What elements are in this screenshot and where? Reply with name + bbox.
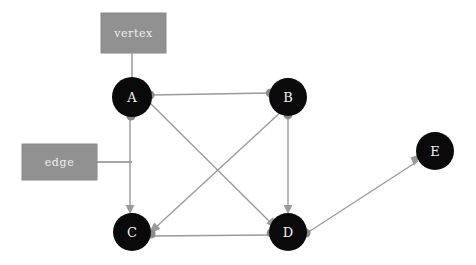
edge-b-d-arrowhead <box>284 205 293 214</box>
node-e-label: E <box>430 144 440 159</box>
edge-c-d-line <box>151 235 270 236</box>
node-a[interactable]: A <box>112 77 152 117</box>
node-b[interactable]: B <box>269 78 307 116</box>
edge-b-c[interactable] <box>148 110 283 235</box>
node-c[interactable]: C <box>113 213 151 251</box>
node-c-label: C <box>127 225 137 240</box>
edge-a-d[interactable] <box>150 103 279 230</box>
edge-a-c-arrowhead <box>126 205 135 214</box>
graph-svg: A B C D E vertex <box>0 0 476 265</box>
callout-edge[interactable]: edge <box>22 144 97 180</box>
edge-b-d[interactable] <box>284 116 293 214</box>
edge-a-b-line <box>152 93 270 95</box>
edge-a-c[interactable] <box>126 117 135 214</box>
diagram-canvas: A B C D E vertex <box>0 0 476 265</box>
edge-d-e[interactable] <box>307 153 423 233</box>
callout-vertex[interactable]: vertex <box>101 13 166 53</box>
graph-nodes: A B C D E <box>112 77 454 251</box>
edge-a-b[interactable] <box>152 89 279 98</box>
node-d-label: D <box>283 225 293 240</box>
callout-edge-label: edge <box>45 156 75 169</box>
node-a-label: A <box>126 90 137 105</box>
node-b-label: B <box>283 90 293 105</box>
node-d[interactable]: D <box>269 213 307 251</box>
edge-c-d[interactable] <box>151 231 279 240</box>
edge-d-e-line <box>307 161 418 233</box>
node-e[interactable]: E <box>416 132 454 170</box>
callout-vertex-label: vertex <box>113 27 153 40</box>
graph-edges <box>126 89 424 240</box>
edge-a-d-line <box>150 103 272 224</box>
